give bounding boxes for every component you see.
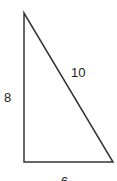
- label-hypotenuse: 10: [71, 65, 85, 80]
- triangle-diagram: 8 10 6: [0, 0, 117, 181]
- label-horizontal-side: 6: [61, 174, 68, 181]
- label-vertical-side: 8: [4, 90, 11, 105]
- right-triangle: [24, 13, 113, 162]
